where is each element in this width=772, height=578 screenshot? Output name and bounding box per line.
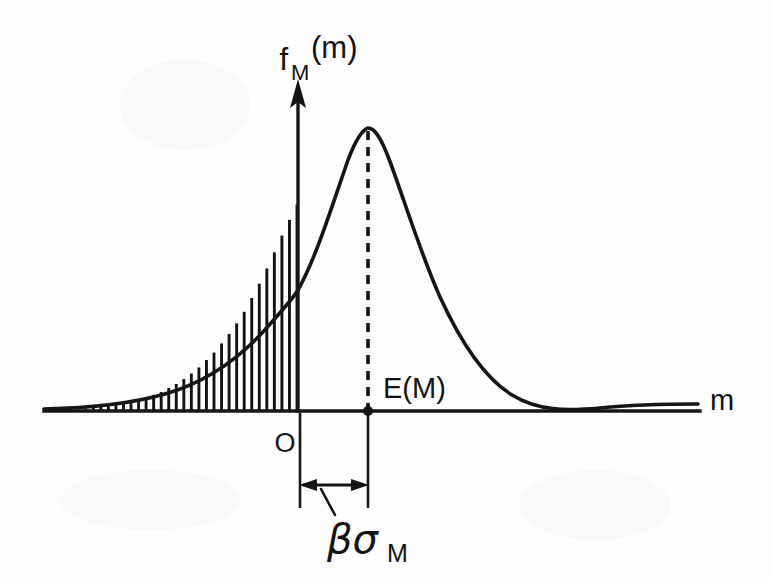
x-axis-label: m bbox=[710, 384, 734, 416]
density-curve bbox=[44, 128, 698, 410]
mean-label: E(M) bbox=[383, 372, 446, 404]
dimension-label: βσ bbox=[326, 516, 380, 562]
y-axis-label-argument: (m) bbox=[311, 30, 357, 65]
origin-label: O bbox=[274, 428, 295, 458]
dimension-leader-line bbox=[321, 489, 335, 515]
failure-probability-hatching bbox=[48, 205, 297, 411]
dimension-label-subscript: M bbox=[387, 539, 408, 567]
y-axis-label-subscript: M bbox=[291, 60, 309, 85]
density-figure: f M (m) m O E(M) βσ M bbox=[0, 0, 772, 578]
dimension-arrowhead-right bbox=[351, 479, 369, 491]
figure-root: f M (m) m O E(M) βσ M bbox=[0, 0, 772, 578]
y-axis-label-main: f bbox=[279, 42, 288, 77]
dimension-arrowhead-left bbox=[299, 479, 317, 491]
